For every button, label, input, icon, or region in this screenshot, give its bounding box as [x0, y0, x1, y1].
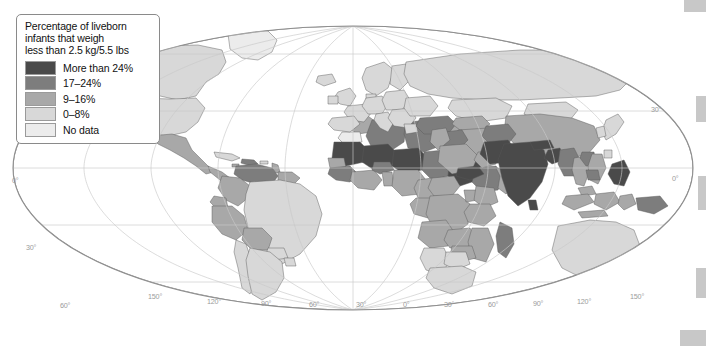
- legend-swatch-9-16: [25, 92, 56, 106]
- edge-marker-bottom: [680, 330, 706, 346]
- lon-label-60e: 60°: [488, 300, 498, 309]
- edge-marker-lower: [696, 268, 706, 298]
- legend-label-17-24: 17–24%: [63, 77, 101, 89]
- country-new-zealand: [660, 256, 678, 278]
- figure-canvas: Percentage of liveborn infants that weig…: [0, 0, 706, 358]
- edge-marker-top: [684, 0, 706, 12]
- country-australia: [552, 220, 640, 278]
- country-new-zealand-south: [652, 274, 670, 290]
- lat-label-0-left: 0°: [12, 176, 18, 185]
- legend-swatch-no-data: [25, 123, 56, 137]
- legend-item-more-than-24[interactable]: More than 24%: [25, 60, 152, 75]
- lon-label-120w: 120°: [207, 297, 221, 306]
- lon-label-120e: 120°: [577, 297, 591, 306]
- country-fiji-islands: [678, 232, 684, 238]
- country-sri-lanka: [528, 200, 538, 210]
- lat-label-30n-right: 30°: [651, 105, 661, 114]
- lon-label-90e: 90°: [533, 299, 543, 308]
- country-tasmania: [616, 278, 626, 286]
- lon-label-60w: 60°: [309, 300, 319, 309]
- map-legend: Percentage of liveborn infants that weig…: [16, 14, 160, 144]
- lat-label-0-right: 0°: [672, 174, 678, 183]
- legend-swatch-0-8: [25, 107, 56, 121]
- legend-label-9-16: 9–16%: [63, 93, 95, 105]
- lat-label-30s-left: 30°: [26, 243, 36, 252]
- lon-label-150w: 150°: [148, 292, 162, 301]
- legend-swatch-more-than-24: [25, 61, 56, 75]
- edge-marker-mid: [698, 176, 706, 210]
- lon-label-30e: 30°: [444, 300, 454, 309]
- legend-item-0-8[interactable]: 0–8%: [25, 107, 152, 122]
- lon-label-0: 0°: [403, 300, 409, 309]
- legend-title: Percentage of liveborn infants that weig…: [25, 21, 152, 56]
- lon-label-30w: 30°: [356, 300, 366, 309]
- country-ireland: [328, 96, 338, 104]
- legend-label-no-data: No data: [63, 124, 99, 136]
- legend-label-0-8: 0–8%: [63, 108, 89, 120]
- country-taiwan: [604, 150, 612, 158]
- lat-label-60s-left: 60°: [60, 301, 70, 310]
- lon-label-90w: 90°: [261, 299, 271, 308]
- country-russia: [404, 50, 634, 100]
- country-puerto-rico: [260, 161, 268, 164]
- lon-label-150e: 150°: [630, 292, 644, 301]
- country-cambodia: [586, 170, 600, 180]
- country-uruguay: [284, 258, 296, 266]
- legend-label-more-than-24: More than 24%: [63, 62, 133, 74]
- country-korea: [596, 126, 606, 138]
- legend-swatch-17-24: [25, 76, 56, 90]
- legend-item-no-data[interactable]: No data: [25, 122, 152, 137]
- legend-item-17-24[interactable]: 17–24%: [25, 76, 152, 91]
- legend-item-9-16[interactable]: 9–16%: [25, 91, 152, 106]
- edge-marker-upper: [696, 96, 706, 122]
